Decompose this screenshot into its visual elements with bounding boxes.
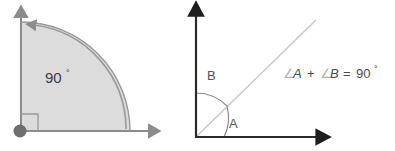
angle-90-label: 90 xyxy=(45,69,62,86)
figure-canvas: 90 ° B A ∠ A + ∠ B xyxy=(0,0,395,151)
angle-a-arc xyxy=(224,106,229,137)
equation-plus-sign: + xyxy=(307,66,315,81)
right-diagram-group: B A ∠ A + ∠ B = 90 ° xyxy=(195,14,378,138)
angle-a-label: A xyxy=(229,116,238,131)
left-diagram-group: 90 ° xyxy=(14,16,151,138)
angle-90-degree-symbol: ° xyxy=(66,68,70,78)
vertex-dot xyxy=(14,125,27,138)
equation-equals-sign: = xyxy=(343,66,351,81)
equation-term-a: A xyxy=(292,66,302,81)
equation-term-b: B xyxy=(330,66,339,81)
angle-b-arc xyxy=(196,93,227,106)
equation-value: 90 xyxy=(356,66,370,81)
angle-b-label: B xyxy=(207,68,216,83)
equation-degree-symbol: ° xyxy=(374,64,378,74)
figure-root: 90 ° B A ∠ A + ∠ B xyxy=(0,0,395,151)
equation-group: ∠ A + ∠ B = 90 ° xyxy=(283,64,378,81)
